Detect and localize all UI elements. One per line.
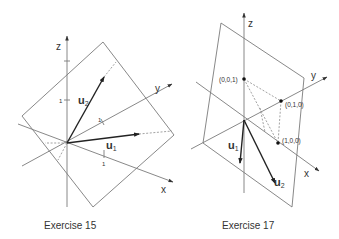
u1-label: u1: [228, 139, 239, 152]
dashed-line: [244, 79, 278, 143]
point-0-0-1: [242, 77, 246, 81]
x-tick-label: 1: [102, 161, 106, 167]
dashed-line: [104, 62, 116, 77]
z-axis-label: z: [248, 18, 253, 29]
x-axis-label: x: [304, 168, 309, 179]
x-axis-label: x: [161, 184, 166, 195]
caption-exercise-17: Exercise 17: [222, 220, 274, 231]
y-axis-label: y: [155, 83, 160, 94]
dashed-line: [139, 131, 172, 134]
figure-exercise-15: z y x 1 1 1 u2 u1: [18, 36, 174, 207]
caption-exercise-15: Exercise 15: [44, 220, 96, 231]
dashed-line: [278, 101, 281, 143]
point-1-0-0: [276, 141, 280, 145]
vector-u2: [244, 120, 275, 183]
figure-exercise-17: z y x (0,0,1) (0,1,0) (1,0,0) u1 u2: [191, 13, 327, 207]
z-axis-label: z: [56, 41, 61, 52]
point-0-1-0: [279, 99, 283, 103]
u1-label: u1: [106, 139, 117, 152]
plane-parallelogram: [203, 23, 304, 207]
y-tick-1: [101, 119, 104, 125]
point-label-0-1-0: (0,1,0): [285, 101, 304, 109]
point-label-1-0-0: (1,0,0): [282, 137, 301, 145]
x-axis: [196, 82, 319, 171]
u2-label: u2: [78, 94, 89, 107]
diagrams-canvas: z y x 1 1 1 u2 u1 z y x (0,0,1) (0,1,0) …: [0, 0, 339, 239]
u2-label: u2: [274, 176, 285, 189]
y-axis-label: y: [311, 70, 316, 81]
vector-u1: [240, 120, 244, 163]
point-label-0-0-1: (0,0,1): [219, 76, 238, 84]
vector-u2: [67, 77, 104, 143]
z-tick-label: 1: [59, 98, 63, 104]
